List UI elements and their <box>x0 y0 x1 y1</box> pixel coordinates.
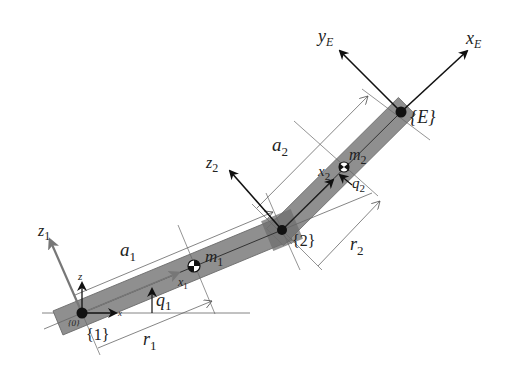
r2-dimension-line <box>318 201 380 266</box>
frame0-label: {0} <box>68 318 80 328</box>
r2-label: r2 <box>350 234 364 258</box>
r1-label: r1 <box>143 329 157 353</box>
xE-label: xE <box>465 28 482 51</box>
z2-axis-arrow <box>230 171 282 230</box>
z2-label: z2 <box>205 154 218 175</box>
frameE-label: {E} <box>410 107 436 127</box>
m1-center-of-mass-icon <box>188 260 200 272</box>
a2-label: a2 <box>272 134 288 159</box>
a1-label: a1 <box>120 239 136 264</box>
m2-center-of-mass-icon <box>339 162 349 172</box>
robot-arm-diagram: z1 z x {0} {1} a1 x1 m1 q1 r1 z2 a2 x2 m… <box>0 0 511 374</box>
joint-0 <box>77 308 88 319</box>
yE-axis-arrow <box>340 51 401 112</box>
base-z-label: z <box>77 270 83 282</box>
z1-label: z1 <box>37 222 50 243</box>
q2-label: q2 <box>352 175 365 194</box>
frame1-label: {1} <box>86 326 109 343</box>
q1-label: q1 <box>156 290 172 313</box>
frame2-label: {2} <box>292 232 315 249</box>
base-x-label: x <box>117 308 122 318</box>
end-effector-joint <box>396 107 407 118</box>
joint-2 <box>277 225 287 235</box>
yE-label: yE <box>316 26 334 49</box>
xE-axis-arrow <box>401 51 467 112</box>
